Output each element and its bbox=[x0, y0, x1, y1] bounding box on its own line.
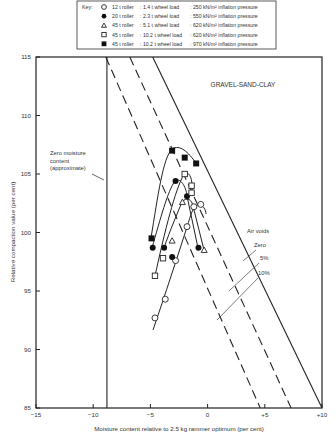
filled-circle-marker bbox=[195, 245, 201, 251]
legend-load: : 1.4 t wheel load bbox=[140, 4, 179, 10]
air-voids-label: Air voids bbox=[247, 228, 269, 234]
legend-roller: 12 t roller bbox=[112, 4, 134, 10]
legend-roller: 45 t roller bbox=[112, 32, 134, 38]
zero-moisture-arrow bbox=[92, 174, 104, 180]
filled-circle-marker bbox=[161, 245, 167, 251]
air-voids-10-label: 10% bbox=[258, 270, 270, 276]
zero-arrow bbox=[243, 250, 256, 261]
legend-roller: 45 t roller bbox=[112, 22, 134, 28]
y-tick-label: 100 bbox=[21, 229, 32, 236]
open-square-marker bbox=[160, 256, 165, 261]
open-square-marker bbox=[152, 273, 157, 278]
filled-square-marker bbox=[193, 160, 199, 166]
legend-key-label: Key: bbox=[82, 4, 93, 10]
x-tick-label: −5 bbox=[147, 411, 155, 418]
five-pct-arrow bbox=[229, 263, 259, 291]
legend-pressure: : 620 kN/m² inflation pressure bbox=[190, 32, 258, 38]
open-square-marker bbox=[182, 171, 187, 176]
plot-frame bbox=[36, 57, 322, 408]
legend: Key:12 t roller: 1.4 t wheel load: 250 k… bbox=[77, 1, 276, 49]
annotations: Zero moisturecontent(approximate)Air voi… bbox=[50, 150, 270, 320]
open-square-marker bbox=[189, 190, 194, 195]
legend-roller: 20 t roller bbox=[112, 13, 134, 19]
open-circle-marker bbox=[184, 224, 190, 230]
x-tick-label: −10 bbox=[88, 411, 99, 418]
filled-square-marker bbox=[182, 155, 188, 161]
open-circle-marker bbox=[102, 5, 107, 10]
filled-square-marker bbox=[169, 148, 175, 154]
compaction-curves bbox=[151, 147, 206, 330]
open-square-marker bbox=[189, 183, 194, 188]
open-triangle-marker bbox=[201, 247, 207, 252]
x-axis-label: Moisture content relative to 2.5 kg ramm… bbox=[94, 425, 264, 432]
air-voids-zero-label: Zero bbox=[254, 242, 266, 248]
legend-pressure: : 250 kN/m² inflation pressure bbox=[190, 4, 258, 10]
x-tick-label: +10 bbox=[317, 411, 328, 418]
ten-pct-arrow bbox=[217, 278, 258, 320]
legend-pressure: : 620 kN/m² inflation pressure bbox=[190, 22, 258, 28]
open-circle-marker bbox=[191, 204, 197, 210]
y-tick-label: 105 bbox=[21, 170, 32, 177]
y-tick-label: 85 bbox=[24, 404, 31, 411]
filled-circle-marker bbox=[102, 14, 107, 19]
legend-pressure: : 970 kN/m² inflation pressure bbox=[190, 41, 258, 47]
open-circle-marker bbox=[162, 296, 168, 302]
y-tick-label: 115 bbox=[21, 53, 31, 60]
filled-circle-marker bbox=[150, 245, 156, 251]
filled-square-marker bbox=[149, 235, 155, 241]
air-voids-5-label: 5% bbox=[260, 255, 268, 261]
zero-moisture-annotation: Zero moisturecontent(approximate) bbox=[50, 150, 86, 171]
filled-circle-marker bbox=[169, 254, 175, 260]
legend-pressure: : 550 kN/m² inflation pressure bbox=[190, 13, 258, 19]
open-circle-marker bbox=[198, 201, 204, 207]
y-tick-label: 110 bbox=[21, 112, 31, 119]
legend-roller: 45 t roller bbox=[112, 41, 134, 47]
x-tick-label: +5 bbox=[261, 411, 269, 418]
chart-title: GRAVEL-SAND-CLAY bbox=[211, 81, 276, 88]
compaction-chart: Key:12 t roller: 1.4 t wheel load: 250 k… bbox=[0, 0, 336, 439]
filled-circle-marker bbox=[173, 178, 179, 184]
x-tick-label: −15 bbox=[31, 411, 42, 418]
y-axis-label: Relative compaction value (per cent) bbox=[9, 182, 16, 282]
legend-load: : 2.3 t wheel load bbox=[140, 13, 179, 19]
legend-load: : 10.2 t wheel load bbox=[140, 41, 182, 47]
open-triangle-marker bbox=[169, 238, 175, 243]
legend-load: : 5.1 t wheel load bbox=[140, 22, 179, 28]
open-circle-marker bbox=[152, 315, 158, 321]
plot-area: −15−10−50+5+10859095100105110115Zero moi… bbox=[21, 53, 328, 418]
open-square-marker bbox=[102, 32, 106, 36]
legend-load: : 10.2 t wheel load bbox=[140, 32, 182, 38]
reference-lines bbox=[106, 57, 322, 408]
filled-square-marker bbox=[102, 41, 107, 46]
y-tick-label: 90 bbox=[24, 346, 31, 353]
x-tick-label: 0 bbox=[206, 411, 210, 418]
y-tick-label: 95 bbox=[24, 287, 31, 294]
